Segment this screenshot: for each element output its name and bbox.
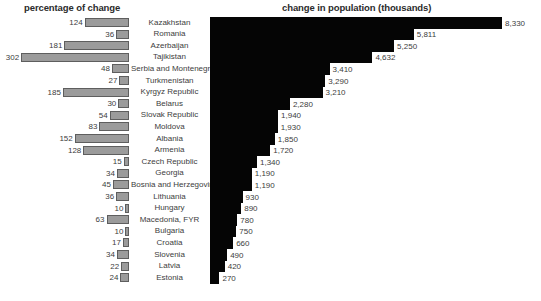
population-bar: [210, 52, 372, 64]
population-value-label: 1,850: [278, 134, 298, 145]
country-label: Bulgaria: [131, 225, 208, 237]
percentage-value-label: 63: [65, 214, 105, 225]
chart-row: 34Georgia1,190: [0, 168, 541, 180]
percentage-value-label: 128: [41, 145, 81, 156]
percentage-bar: [120, 273, 129, 282]
percentage-bar: [64, 41, 129, 50]
population-bar: [210, 87, 323, 99]
percentage-value-label: 30: [76, 98, 116, 109]
percentage-value-label: 45: [71, 179, 111, 190]
population-value-label: 660: [236, 238, 249, 249]
chart-row: 128Armenia1,720: [0, 145, 541, 157]
population-value-label: 780: [240, 215, 253, 226]
population-value-label: 270: [222, 273, 235, 284]
percentage-bar: [119, 76, 129, 85]
population-value-label: 8,330: [505, 18, 525, 29]
percentage-value-label: 10: [83, 226, 123, 237]
population-bar: [210, 191, 243, 203]
percentage-bar: [21, 53, 129, 62]
population-bar: [210, 203, 241, 215]
percentage-value-label: 185: [21, 87, 61, 98]
country-label: Romania: [131, 28, 208, 40]
chart-row: 302Tajikistan4,632: [0, 52, 541, 64]
population-bar: [210, 133, 275, 145]
population-value-label: 890: [244, 203, 257, 214]
population-bar: [210, 214, 237, 226]
population-bar: [210, 237, 233, 249]
percentage-value-label: 48: [70, 63, 110, 74]
percentage-value-label: 124: [43, 17, 83, 28]
population-value-label: 4,632: [375, 52, 395, 63]
country-label: Georgia: [131, 167, 208, 179]
population-value-label: 3,290: [328, 76, 348, 87]
chart-row: 34Slovenia490: [0, 249, 541, 261]
population-bar: [210, 156, 257, 168]
population-value-label: 5,811: [417, 29, 436, 40]
chart-row: 36Lithuania930: [0, 191, 541, 203]
percentage-bar: [75, 134, 129, 143]
population-value-label: 2,280: [293, 99, 313, 110]
percentage-value-label: 24: [78, 272, 118, 283]
chart-row: 63Macedonia, FYR780: [0, 214, 541, 226]
percentage-bar: [107, 215, 129, 224]
country-label: Macedonia, FYR: [131, 214, 208, 226]
population-bar: [210, 40, 394, 52]
percentage-bar: [113, 180, 129, 189]
chart-row: 15Czech Republic1,340: [0, 156, 541, 168]
chart-row: 83Moldova1,930: [0, 121, 541, 133]
population-bar: [210, 17, 502, 29]
population-bar: [210, 98, 290, 110]
chart-row: 22Latvia420: [0, 261, 541, 273]
dual-bar-chart-figure: percentage of change change in populatio…: [0, 0, 541, 301]
country-label: Armenia: [131, 144, 208, 156]
population-value-label: 930: [246, 192, 259, 203]
percentage-value-label: 54: [68, 110, 108, 121]
population-value-label: 1,190: [255, 168, 275, 179]
country-label: Slovenia: [131, 249, 208, 261]
country-label: Turkmenistan: [131, 75, 208, 87]
percentage-bar: [121, 262, 129, 271]
population-bar: [210, 179, 252, 191]
country-label: Albania: [131, 133, 208, 145]
percentage-value-label: 302: [0, 52, 19, 63]
population-value-label: 490: [230, 250, 243, 261]
population-value-label: 1,340: [260, 157, 280, 168]
chart-row: 54Slovak Republic1,940: [0, 110, 541, 122]
country-label: Lithuania: [131, 191, 208, 203]
percentage-bar: [124, 157, 129, 166]
population-bar: [210, 226, 236, 238]
country-label: Hungary: [131, 202, 208, 214]
population-bar: [210, 121, 278, 133]
population-bar: [210, 110, 278, 122]
percentage-value-label: 152: [33, 133, 73, 144]
percentage-bar: [125, 204, 129, 213]
population-bar: [210, 249, 227, 261]
percentage-bar: [83, 146, 129, 155]
population-value-label: 1,190: [255, 180, 275, 191]
country-label: Latvia: [131, 260, 208, 272]
right-chart-title: change in population (thousands): [282, 2, 431, 13]
chart-row: 36Romania5,811: [0, 29, 541, 41]
percentage-value-label: 83: [57, 121, 97, 132]
percentage-value-label: 181: [22, 40, 62, 51]
percentage-bar: [99, 122, 129, 131]
percentage-bar: [117, 169, 129, 178]
percentage-bar: [63, 88, 129, 97]
population-value-label: 3,410: [333, 64, 353, 75]
country-label: Croatia: [131, 237, 208, 249]
country-label: Belarus: [131, 98, 208, 110]
percentage-bar: [112, 64, 129, 73]
percentage-value-label: 17: [81, 237, 121, 248]
percentage-bar: [85, 18, 129, 27]
percentage-value-label: 34: [75, 249, 115, 260]
chart-row: 24Estonia270: [0, 272, 541, 284]
percentage-value-label: 22: [79, 261, 119, 272]
country-label: Bosnia and Herzegovina: [131, 179, 208, 191]
population-value-label: 420: [228, 261, 241, 272]
country-label: Azerbaijan: [131, 40, 208, 52]
country-label: Kazakhstan: [131, 17, 208, 29]
chart-row: 10Bulgaria750: [0, 226, 541, 238]
chart-row: 27Turkmenistan3,290: [0, 75, 541, 87]
population-bar: [210, 75, 325, 87]
population-value-label: 1,940: [281, 110, 301, 121]
